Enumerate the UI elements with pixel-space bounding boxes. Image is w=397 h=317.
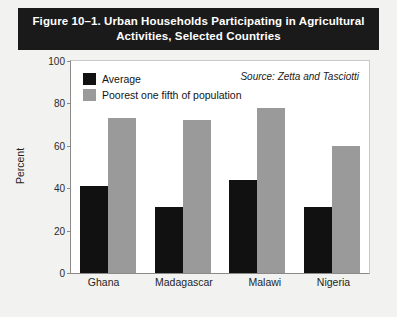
x-axis-label-nigeria: Nigeria bbox=[317, 276, 350, 288]
figure-container: Figure 10–1. Urban Households Participat… bbox=[0, 0, 397, 317]
bar-poorest-malawi bbox=[257, 108, 285, 273]
bar-group-nigeria bbox=[304, 61, 360, 273]
bar-average-malawi bbox=[229, 180, 257, 273]
x-axis-label-ghana: Ghana bbox=[88, 276, 120, 288]
y-tick-label: 80 bbox=[54, 98, 71, 109]
bar-average-nigeria bbox=[304, 207, 332, 273]
y-tick-label: 60 bbox=[54, 140, 71, 151]
page-title-line-2: Activities, Selected Countries bbox=[116, 29, 281, 44]
y-tick-label: 40 bbox=[54, 183, 71, 194]
chart-area: Percent 100 80 60 40 20 bbox=[18, 52, 379, 300]
x-axis-label-madagascar: Madagascar bbox=[155, 276, 213, 288]
x-axis-label-malawi: Malawi bbox=[248, 276, 281, 288]
bar-poorest-madagascar bbox=[183, 120, 211, 273]
bar-group-ghana bbox=[80, 61, 136, 273]
bar-poorest-nigeria bbox=[332, 146, 360, 273]
y-tick-label: 100 bbox=[48, 56, 71, 67]
bar-average-madagascar bbox=[155, 207, 183, 273]
plot-frame: 100 80 60 40 20 0 bbox=[70, 60, 370, 274]
bar-group-madagascar bbox=[155, 61, 211, 273]
x-axis-labels: Ghana Madagascar Malawi Nigeria bbox=[70, 276, 368, 288]
y-axis-title: Percent bbox=[14, 148, 26, 184]
figure-title-banner: Figure 10–1. Urban Households Participat… bbox=[18, 8, 379, 50]
bar-poorest-ghana bbox=[108, 118, 136, 273]
bar-groups bbox=[71, 61, 369, 273]
y-tick-label: 20 bbox=[54, 225, 71, 236]
page-title-line-1: Figure 10–1. Urban Households Participat… bbox=[32, 14, 364, 29]
bar-average-ghana bbox=[80, 186, 108, 273]
bar-group-malawi bbox=[229, 61, 285, 273]
